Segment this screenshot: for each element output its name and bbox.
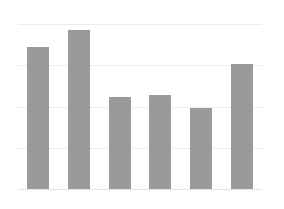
bar bbox=[190, 108, 212, 189]
bar bbox=[68, 30, 90, 189]
bar-chart bbox=[0, 0, 284, 209]
bar bbox=[231, 64, 253, 189]
bar bbox=[149, 95, 171, 189]
bar bbox=[27, 47, 49, 189]
bar-series bbox=[18, 24, 262, 189]
gridline-baseline bbox=[18, 189, 262, 190]
bar bbox=[109, 97, 131, 189]
plot-area bbox=[18, 24, 262, 189]
